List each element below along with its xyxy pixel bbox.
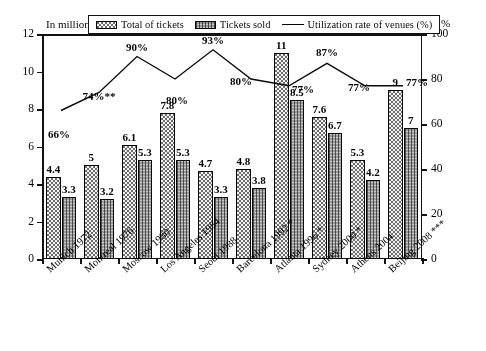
- legend-label: Tickets sold: [220, 19, 271, 30]
- left-axis-caption: In million: [46, 18, 90, 30]
- utilization-rate-value-label: 77%: [406, 77, 428, 88]
- utilization-rate-value-label: 93%: [202, 35, 224, 46]
- legend-swatch-total-icon: [96, 21, 117, 29]
- utilization-rate-value-label: 80%: [230, 76, 252, 87]
- utilization-rate-value-label: 74%**: [83, 91, 116, 102]
- y-axis-left-tick-label: 8: [28, 103, 34, 115]
- legend-swatch-line-icon: [282, 24, 304, 25]
- y-axis-right-tick-label: 60: [431, 118, 443, 130]
- utilization-rate-value-label: 77%: [348, 82, 370, 93]
- utilization-rate-value-label: 90%: [126, 42, 148, 53]
- y-axis-left-tick-label: 2: [28, 216, 34, 228]
- utilization-rate-line: [42, 34, 422, 259]
- y-axis-left-tick-label: 0: [28, 253, 34, 265]
- legend-item: Total of tickets: [96, 19, 184, 30]
- utilization-rate-value-label: 80%: [166, 95, 188, 106]
- legend-item: Utilization rate of venues (%): [282, 19, 433, 30]
- legend-label: Total of tickets: [121, 19, 184, 30]
- legend-label: Utilization rate of venues (%): [308, 19, 433, 30]
- utilization-rate-value-label: 66%: [48, 129, 70, 140]
- chart-legend: Total of ticketsTickets soldUtilization …: [88, 15, 440, 34]
- y-axis-left-tick-label: 12: [23, 28, 35, 40]
- y-axis-right-tick-label: 40: [431, 163, 443, 175]
- x-axis-tick: [422, 258, 424, 264]
- plot-area: 024681012 020406080100 4.43.353.26.15.37…: [42, 34, 422, 259]
- utilization-rate-value-label: 77%: [292, 84, 314, 95]
- utilization-rate-value-label: 87%: [316, 47, 338, 58]
- legend-item: Tickets sold: [195, 19, 271, 30]
- y-axis-right-tick-label: 0: [431, 253, 437, 265]
- legend-swatch-sold-icon: [195, 21, 216, 29]
- y-axis-left-tick-label: 4: [28, 178, 34, 190]
- y-axis-left-tick-label: 6: [28, 141, 34, 153]
- chart-figure: In million % Total of ticketsTickets sol…: [0, 0, 486, 351]
- y-axis-left-tick-label: 10: [23, 66, 35, 78]
- y-axis-right-tick-label: 80: [431, 73, 443, 85]
